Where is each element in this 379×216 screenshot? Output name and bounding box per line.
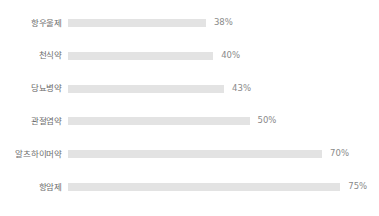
category-label: 항암제 — [0, 182, 62, 193]
category-label: 항우울제 — [0, 18, 62, 29]
bar-fill — [68, 52, 213, 60]
bar-track — [68, 117, 250, 125]
bar-fill — [68, 183, 340, 191]
bar-row: 알츠하이머약70% — [0, 143, 379, 165]
bar-value-label: 43% — [232, 82, 251, 94]
bar-track — [68, 150, 322, 158]
bar-fill — [68, 150, 322, 158]
category-label: 알츠하이머약 — [0, 149, 62, 160]
bar-row: 항우울제38% — [0, 12, 379, 34]
bar-row: 관절염약50% — [0, 110, 379, 132]
bar-row: 천식약40% — [0, 45, 379, 67]
category-label: 천식약 — [0, 50, 62, 61]
bar-fill — [68, 117, 250, 125]
bar-row: 항암제75% — [0, 176, 379, 198]
bar-value-label: 70% — [330, 147, 349, 159]
bar-track — [68, 85, 224, 93]
bar-fill — [68, 85, 224, 93]
bar-row: 당뇨병약43% — [0, 78, 379, 100]
bar-value-label: 40% — [221, 49, 240, 61]
bar-track — [68, 183, 340, 191]
bar-value-label: 50% — [258, 114, 277, 126]
horizontal-bar-chart: 항우울제38%천식약40%당뇨병약43%관절염약50%알츠하이머약70%항암제7… — [0, 0, 379, 216]
category-label: 당뇨병약 — [0, 83, 62, 94]
bar-track — [68, 19, 206, 27]
bar-value-label: 38% — [214, 16, 233, 28]
bar-track — [68, 52, 213, 60]
bar-fill — [68, 19, 206, 27]
category-label: 관절염약 — [0, 116, 62, 127]
bar-value-label: 75% — [348, 180, 367, 192]
